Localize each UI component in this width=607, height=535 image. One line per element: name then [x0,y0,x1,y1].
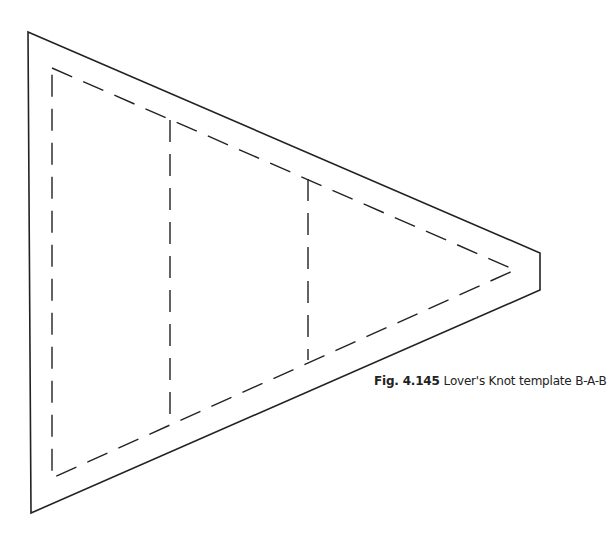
figure-caption: Fig. 4.145Lover's Knot template B-A-B [374,374,607,388]
inner-sewing-line [52,68,515,478]
figure-title: Lover's Knot template B-A-B [444,374,607,388]
outer-cut-line [28,32,540,513]
figure-label: Fig. 4.145 [374,374,440,388]
